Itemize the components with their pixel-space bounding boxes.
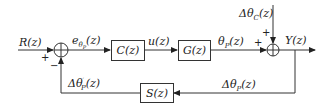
input-label: R(z) — [19, 37, 42, 48]
plant-output-label: θP(z) — [218, 36, 244, 50]
sensor-output-label: Δθ′P(z) — [68, 77, 100, 92]
controller-label: C(z) — [117, 44, 140, 57]
output-label: Y(z) — [285, 35, 307, 46]
disturbance-label: ΔθC(z) — [239, 8, 273, 22]
plant-label: G(z) — [183, 44, 206, 57]
feedback-label: ΔθP(z) — [222, 79, 256, 93]
sensor-label: S(z) — [146, 87, 168, 100]
right-sum-plus-left-sign: + — [254, 38, 262, 48]
right-sum-plus-top-sign: + — [262, 28, 270, 38]
sensor-block: S(z) — [140, 83, 174, 103]
plant-block: G(z) — [178, 40, 211, 61]
error-label: eθP(z) — [72, 35, 101, 51]
left-sum-plus-sign: + — [41, 53, 49, 63]
left-sum-minus-sign: − — [50, 61, 58, 71]
control-label: u(z) — [148, 36, 169, 47]
controller-block: C(z) — [111, 40, 145, 61]
